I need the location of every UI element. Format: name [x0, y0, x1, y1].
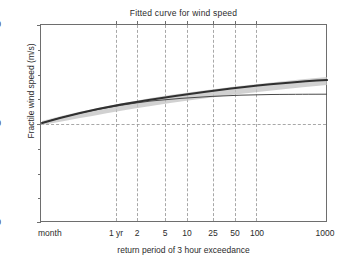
x-tick-label-50: 50 — [230, 228, 239, 238]
chart-canvas — [41, 25, 328, 223]
x-tick-label-25: 25 — [208, 228, 217, 238]
plot-area — [40, 24, 327, 222]
x-tick-label-1000: 1000 — [316, 228, 335, 238]
y-tick-label-40: 40 — [0, 19, 1, 29]
x-tick-label-1yr: 1 yr — [109, 228, 123, 238]
y-tick-label-20: 20 — [0, 118, 1, 128]
y-tick-label-0: 0 — [0, 217, 1, 227]
secondary-branch-line — [42, 94, 327, 123]
x-tick-label-month: month — [38, 228, 62, 238]
confidence-band — [42, 77, 327, 125]
x-tick-label-100: 100 — [250, 228, 264, 238]
chart-title: Fitted curve for wind speed — [40, 8, 327, 18]
x-tick-label-5: 5 — [163, 228, 168, 238]
x-tick-label-10: 10 — [182, 228, 191, 238]
x-tick-label-2: 2 — [135, 228, 140, 238]
x-axis-title: return period of 3 hour exceedance — [40, 245, 327, 255]
chart-figure: Fitted curve for wind speed Fractile win… — [0, 0, 346, 267]
y-axis-title: Fractile wind speed (m/s) — [26, 11, 36, 171]
